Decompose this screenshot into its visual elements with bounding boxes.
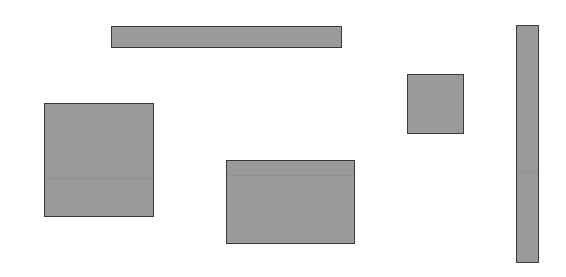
right-vertical-bar — [516, 25, 539, 263]
center-rectangle — [226, 160, 355, 244]
seam-line — [227, 175, 354, 176]
top-horizontal-bar — [111, 26, 342, 48]
left-square — [44, 103, 154, 217]
small-square — [407, 74, 464, 134]
seam-line — [45, 178, 153, 179]
drawing-canvas — [0, 0, 566, 277]
seam-line — [517, 172, 538, 173]
